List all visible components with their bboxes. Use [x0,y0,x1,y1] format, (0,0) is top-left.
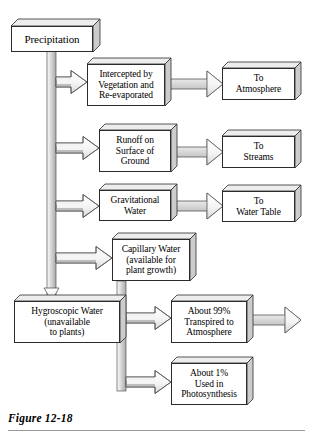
flow-trunk-to-runoff [56,137,99,160]
node-to-streams[interactable]: To Streams [222,136,295,168]
flow-precipitation-trunk [47,51,56,300]
flow-gravitational-to-water-table [171,193,223,219]
flow-capillary-to-transpired [126,307,171,330]
node-intercepted[interactable]: Intercepted by Vegetation and Re-evapora… [87,64,165,106]
flow-trunk-to-capillary [56,247,112,270]
flow-trunk-to-intercepted [56,71,87,94]
node-capillary-water[interactable]: Capillary Water (available for plant gro… [112,239,190,281]
node-capillary-water-label: Capillary Water (available for plant gro… [120,244,183,276]
figure-divider-rule [8,430,305,431]
node-precipitation-label: Precipitation [23,33,82,46]
node-intercepted-label: Intercepted by Vegetation and Re-evapora… [96,69,155,101]
figure-canvas: Precipitation Intercepted by Vegetation … [0,0,313,441]
node-to-streams-label: To Streams [242,141,276,163]
node-precipitation[interactable]: Precipitation [11,26,93,52]
node-photosynthesis[interactable]: About 1% Used in Photosynthesis [171,363,247,405]
node-to-water-table-label: To Water Table [234,196,283,218]
node-transpired[interactable]: About 99% Transpired to Atmosphere [171,301,247,343]
node-gravitational-label: Gravitational Water [109,195,162,217]
node-runoff[interactable]: Runoff on Surface of Ground [99,130,171,172]
flow-capillary-to-photosynthesis [126,371,171,394]
node-hygroscopic-water-label: Hygroscopic Water (unavailable to plants… [29,306,105,338]
node-to-atmosphere[interactable]: To Atmosphere [222,68,295,100]
flow-trunk-to-gravitational [56,195,99,218]
node-gravitational[interactable]: Gravitational Water [99,190,171,221]
node-transpired-label: About 99% Transpired to Atmosphere [182,306,235,338]
node-to-atmosphere-label: To Atmosphere [234,73,283,95]
flow-runoff-to-streams [171,139,223,165]
flow-intercepted-to-atmosphere [165,71,223,97]
node-photosynthesis-label: About 1% Used in Photosynthesis [179,368,239,400]
flow-transpired-outflow [247,307,301,333]
node-runoff-label: Runoff on Surface of Ground [114,135,156,167]
node-hygroscopic-water[interactable]: Hygroscopic Water (unavailable to plants… [14,301,120,343]
figure-caption: Figure 12-18 [8,412,73,424]
node-to-water-table[interactable]: To Water Table [222,191,295,222]
